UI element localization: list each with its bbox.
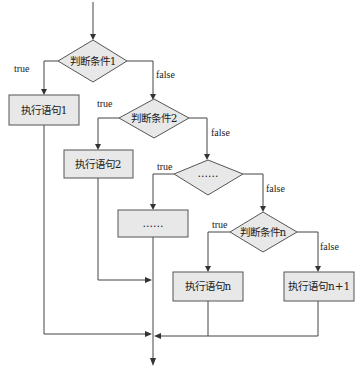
d1-true-line bbox=[44, 61, 58, 91]
decision-n-label: 判断条件n bbox=[240, 226, 287, 238]
d2-false-label: false bbox=[211, 127, 230, 138]
process-3: …… bbox=[118, 210, 188, 237]
d3-false-label: false bbox=[266, 183, 285, 194]
d3-true-arrow-icon bbox=[150, 204, 156, 210]
process-n1: 执行语句n+1 bbox=[284, 272, 354, 301]
d2-true-label: true bbox=[97, 98, 113, 109]
entry-arrow-icon bbox=[90, 34, 96, 40]
d3-true-line bbox=[153, 174, 174, 206]
d2-true-arrow-icon bbox=[95, 144, 101, 150]
decision-2: 判断条件2 bbox=[119, 99, 189, 138]
d3-true-label: true bbox=[157, 161, 173, 172]
decision-1: 判断条件1 bbox=[58, 40, 127, 82]
dn-true-line bbox=[208, 232, 230, 268]
decision-1-label: 判断条件1 bbox=[70, 55, 117, 67]
d1-true-arrow-icon bbox=[41, 89, 47, 95]
p2-merge-arrow-icon bbox=[145, 277, 152, 283]
process-n1-label: 执行语句n+1 bbox=[288, 280, 350, 292]
d2-false-arrow-icon bbox=[204, 154, 210, 160]
dn-false-label: false bbox=[320, 241, 339, 252]
decision-2-label: 判断条件2 bbox=[131, 112, 178, 124]
right-merge-arrow-icon bbox=[154, 333, 161, 339]
process-3-label: …… bbox=[143, 217, 164, 229]
d3-false-arrow-icon bbox=[260, 206, 266, 212]
exit-arrow-icon bbox=[150, 358, 156, 366]
dn-false-arrow-icon bbox=[315, 266, 321, 272]
dn-true-arrow-icon bbox=[205, 266, 211, 272]
d2-true-line bbox=[98, 118, 119, 146]
process-n-label: 执行语句n bbox=[185, 280, 232, 292]
process-1: 执行语句1 bbox=[9, 95, 79, 125]
process-1-label: 执行语句1 bbox=[21, 104, 68, 116]
d3-false-line bbox=[243, 174, 263, 208]
pn1-merge-line bbox=[158, 301, 318, 336]
d2-false-line bbox=[189, 118, 207, 156]
d1-false-line bbox=[127, 61, 153, 96]
flowchart-canvas: 判断条件1 判断条件2 …… 判断条件n 执行语句1 执行语句2 …… 执行语句… bbox=[0, 0, 364, 371]
process-2: 执行语句2 bbox=[64, 150, 133, 178]
dn-true-label: true bbox=[212, 219, 228, 230]
process-2-label: 执行语句2 bbox=[75, 158, 122, 170]
d1-false-label: false bbox=[156, 69, 175, 80]
dn-false-line bbox=[297, 232, 318, 268]
decision-3: …… bbox=[174, 160, 243, 195]
p1-merge-arrow-icon bbox=[145, 331, 152, 337]
d1-true-label: true bbox=[14, 63, 30, 74]
flowchart-svg: 判断条件1 判断条件2 …… 判断条件n 执行语句1 执行语句2 …… 执行语句… bbox=[0, 0, 364, 371]
decision-3-label: …… bbox=[198, 167, 219, 179]
process-n: 执行语句n bbox=[173, 272, 243, 301]
decision-n: 判断条件n bbox=[230, 212, 297, 252]
